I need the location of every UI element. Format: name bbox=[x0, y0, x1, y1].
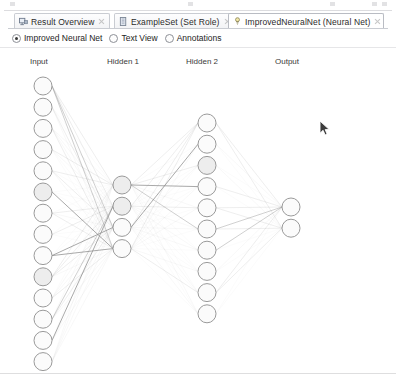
node-circle bbox=[198, 305, 216, 323]
network-edge bbox=[216, 207, 282, 229]
network-node[interactable] bbox=[198, 135, 216, 153]
network-node[interactable] bbox=[34, 331, 52, 349]
network-edge bbox=[131, 208, 198, 249]
close-icon[interactable] bbox=[98, 18, 105, 25]
node-circle bbox=[34, 289, 52, 307]
network-edge bbox=[216, 207, 282, 314]
network-edge bbox=[216, 144, 282, 207]
tab-improved-neural-net[interactable]: ImprovedNeuralNet (Neural Net) bbox=[228, 13, 384, 29]
network-edge bbox=[216, 187, 282, 207]
network-node[interactable] bbox=[198, 241, 216, 259]
network-node[interactable] bbox=[113, 176, 131, 194]
neural-net-icon bbox=[233, 17, 242, 26]
result-overview-icon bbox=[19, 17, 28, 26]
tab-label: ExampleSet (Set Role) bbox=[131, 17, 220, 27]
radio-dot-icon bbox=[109, 34, 118, 43]
network-node[interactable] bbox=[34, 225, 52, 243]
node-circle bbox=[34, 204, 52, 222]
network-edge bbox=[131, 144, 198, 248]
network-edge bbox=[52, 128, 113, 185]
node-circle bbox=[34, 310, 52, 328]
node-circle bbox=[34, 353, 52, 371]
network-edge bbox=[216, 228, 282, 314]
chrome-tick bbox=[330, 2, 335, 6]
radio-label: Annotations bbox=[177, 33, 222, 43]
radio-text-view[interactable]: Text View bbox=[109, 33, 157, 43]
tab-exampleset[interactable]: ExampleSet (Set Role) bbox=[114, 13, 232, 29]
network-node[interactable] bbox=[34, 119, 52, 137]
close-icon[interactable] bbox=[374, 18, 380, 25]
bottom-padding bbox=[0, 374, 396, 381]
node-circle bbox=[198, 262, 216, 280]
node-circle bbox=[34, 247, 52, 265]
node-circle bbox=[198, 114, 216, 132]
network-edge bbox=[131, 229, 198, 249]
node-circle bbox=[113, 176, 131, 194]
network-edge bbox=[216, 207, 282, 271]
node-circle bbox=[113, 218, 131, 236]
network-node[interactable] bbox=[282, 198, 300, 216]
network-node[interactable] bbox=[113, 218, 131, 236]
network-edge bbox=[216, 207, 282, 293]
network-node[interactable] bbox=[113, 240, 131, 258]
network-node[interactable] bbox=[198, 284, 216, 302]
node-circle bbox=[34, 268, 52, 286]
network-edge bbox=[216, 207, 282, 208]
network-edge bbox=[216, 123, 282, 207]
tab-result-overview[interactable]: Result Overview bbox=[14, 13, 110, 29]
node-circle bbox=[198, 241, 216, 259]
node-circle bbox=[34, 119, 52, 137]
exampleset-icon bbox=[119, 17, 128, 26]
node-circle bbox=[198, 135, 216, 153]
network-node[interactable] bbox=[198, 156, 216, 174]
radio-annotations[interactable]: Annotations bbox=[165, 33, 222, 43]
chrome-tick bbox=[188, 2, 193, 6]
network-edge bbox=[131, 123, 198, 249]
network-edge bbox=[131, 249, 198, 251]
network-node[interactable] bbox=[198, 199, 216, 217]
network-node[interactable] bbox=[34, 310, 52, 328]
network-node[interactable] bbox=[113, 197, 131, 215]
node-circle bbox=[198, 178, 216, 196]
node-circle bbox=[34, 77, 52, 95]
network-node[interactable] bbox=[34, 289, 52, 307]
network-edge bbox=[216, 165, 282, 207]
radio-dot-icon bbox=[12, 34, 21, 43]
node-circle bbox=[198, 284, 216, 302]
network-edge bbox=[52, 185, 113, 319]
network-edge bbox=[131, 249, 198, 272]
network-node[interactable] bbox=[34, 183, 52, 201]
node-circle bbox=[34, 141, 52, 159]
neural-network-canvas[interactable]: Input Hidden 1 Hidden 2 Output bbox=[0, 48, 396, 373]
view-mode-radio-group: Improved Neural Net Text View Annotation… bbox=[0, 30, 396, 46]
node-circle bbox=[34, 183, 52, 201]
network-node[interactable] bbox=[34, 98, 52, 116]
mouse-pointer-icon bbox=[319, 120, 331, 137]
network-node[interactable] bbox=[34, 162, 52, 180]
network-node[interactable] bbox=[34, 353, 52, 371]
network-node[interactable] bbox=[198, 262, 216, 280]
network-node[interactable] bbox=[198, 178, 216, 196]
tab-strip-divider bbox=[8, 28, 388, 29]
network-edge bbox=[52, 86, 113, 185]
network-node[interactable] bbox=[34, 268, 52, 286]
network-node[interactable] bbox=[198, 114, 216, 132]
network-node[interactable] bbox=[34, 77, 52, 95]
network-edge bbox=[131, 249, 198, 293]
network-node[interactable] bbox=[198, 305, 216, 323]
radio-improved-neural-net[interactable]: Improved Neural Net bbox=[12, 33, 102, 43]
radio-dot-icon bbox=[165, 34, 174, 43]
node-circle bbox=[113, 240, 131, 258]
node-circle bbox=[113, 197, 131, 215]
node-circle bbox=[34, 331, 52, 349]
node-circle bbox=[198, 199, 216, 217]
network-node[interactable] bbox=[198, 220, 216, 238]
network-node[interactable] bbox=[34, 141, 52, 159]
node-circle bbox=[34, 98, 52, 116]
network-node[interactable] bbox=[34, 247, 52, 265]
network-node[interactable] bbox=[282, 219, 300, 237]
network-edge bbox=[131, 165, 198, 248]
network-node[interactable] bbox=[34, 204, 52, 222]
chrome-tick bbox=[382, 2, 387, 6]
chrome-tick bbox=[10, 2, 15, 6]
